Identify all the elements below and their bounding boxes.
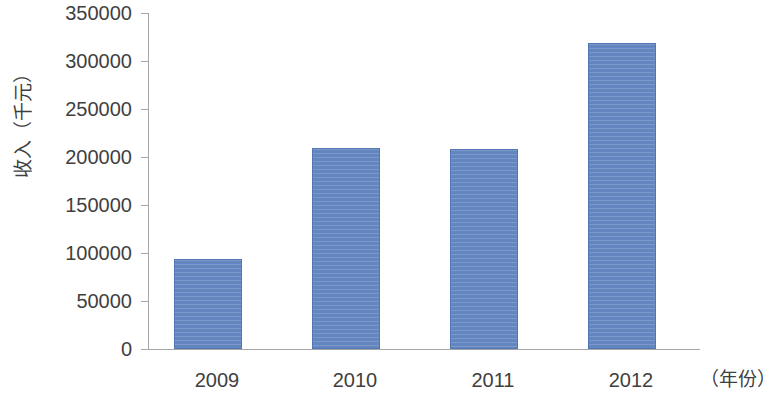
y-axis-tick-label: 200000: [28, 147, 132, 167]
bar-slot: [286, 13, 424, 349]
bar-slot: [562, 13, 700, 349]
y-axis-tick-label: 0: [28, 339, 132, 359]
bar-2011[interactable]: [450, 149, 518, 349]
y-axis-tick-mark: [141, 349, 149, 350]
x-axis-unit-label: （年份）: [700, 368, 768, 392]
y-axis-tick-label-group: 3500003000002500002000001500001000005000…: [28, 0, 132, 401]
y-axis-tick-label: 150000: [28, 195, 132, 215]
x-axis-tick-label: 2012: [562, 368, 700, 392]
x-axis-tick-label: 2009: [148, 368, 286, 392]
y-axis-tick-label: 350000: [28, 3, 132, 23]
y-axis-tick-label: 50000: [28, 291, 132, 311]
x-axis-tick-label: 2010: [286, 368, 424, 392]
y-axis-tick-label: 250000: [28, 99, 132, 119]
plot-area: [148, 13, 700, 349]
bar-slot: [148, 13, 286, 349]
bar-slot: [424, 13, 562, 349]
x-axis-line: [148, 349, 700, 350]
y-axis-tick-label: 100000: [28, 243, 132, 263]
bar-2009[interactable]: [174, 259, 242, 349]
y-axis-tick-label: 300000: [28, 51, 132, 71]
bar-2010[interactable]: [312, 148, 380, 349]
bar-2012[interactable]: [588, 43, 656, 349]
x-axis-tick-label: 2011: [424, 368, 562, 392]
x-axis-tick-label-group: 2009201020112012: [148, 368, 700, 398]
